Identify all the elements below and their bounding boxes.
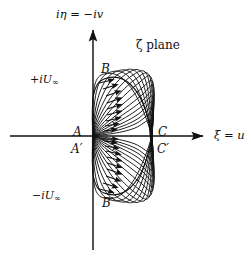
zeta-plane-figure: iη = −iv ζ plane +iU∞ B A A′ C C′ ξ = u … <box>0 0 251 270</box>
point-label-b: B <box>101 63 110 75</box>
velocity-bottom-subscript: ∞ <box>54 193 61 203</box>
plane-label: ζ plane <box>136 39 180 51</box>
velocity-bottom-text: −iU <box>32 189 54 202</box>
velocity-top-subscript: ∞ <box>52 77 59 87</box>
point-label-b-prime: B′ <box>102 197 114 209</box>
point-label-c-prime: C′ <box>157 143 169 155</box>
velocity-top-text: +iU <box>30 73 52 86</box>
point-label-a-prime: A′ <box>71 143 82 155</box>
point-label-a: A <box>73 126 82 138</box>
vertical-axis-label: iη = −iv <box>56 9 103 21</box>
horizontal-axis-label: ξ = u <box>214 130 245 142</box>
velocity-bottom-label: −iU∞ <box>32 190 61 202</box>
point-label-c: C <box>158 126 167 138</box>
velocity-top-label: +iU∞ <box>30 74 59 86</box>
